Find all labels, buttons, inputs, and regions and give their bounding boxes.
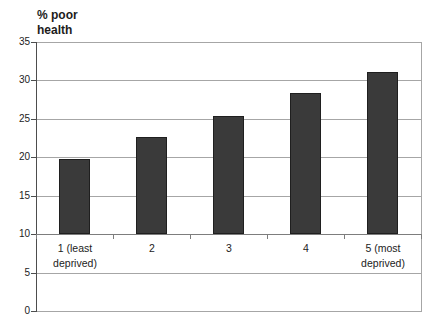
x-tick-label-2: 2	[120, 241, 184, 256]
y-axis-tick-20	[31, 157, 36, 158]
category-axis-line	[36, 234, 422, 235]
y-tick-label-35: 35	[6, 37, 30, 47]
category-axis-tick-0	[36, 235, 37, 239]
bar-chart: % poor health 353025201510501 (least dep…	[0, 0, 438, 336]
y-tick-label-0: 0	[6, 306, 30, 316]
bar-1	[59, 159, 90, 234]
y-axis-tick-15	[31, 196, 36, 197]
x-tick-label-5: 5 (most deprived)	[351, 241, 415, 270]
x-tick-label-1: 1 (least deprived)	[43, 241, 107, 270]
gridline-30	[36, 80, 421, 81]
bar-4	[290, 93, 321, 234]
y-tick-label-5: 5	[6, 268, 30, 278]
gridline-5	[36, 273, 421, 274]
x-tick-label-4: 4	[274, 241, 338, 256]
category-axis-tick-4	[344, 235, 345, 239]
y-tick-label-15: 15	[6, 191, 30, 201]
y-axis-tick-0	[31, 311, 36, 312]
category-axis-tick-3	[267, 235, 268, 239]
y-axis-line	[36, 42, 37, 312]
bar-3	[213, 116, 244, 234]
y-tick-label-30: 30	[6, 75, 30, 85]
y-tick-label-20: 20	[6, 152, 30, 162]
gridline-35	[36, 42, 421, 43]
bar-5	[367, 72, 398, 234]
y-tick-label-25: 25	[6, 114, 30, 124]
category-axis-tick-2	[190, 235, 191, 239]
category-axis-tick-5	[421, 235, 422, 239]
category-axis-tick-1	[113, 235, 114, 239]
y-axis-title: % poor health	[37, 8, 91, 39]
x-tick-label-3: 3	[197, 241, 261, 256]
chart-figure: % poor health 353025201510501 (least dep…	[0, 0, 438, 336]
y-axis-tick-30	[31, 80, 36, 81]
y-axis-tick-5	[31, 273, 36, 274]
plot-border-right	[421, 42, 422, 312]
y-axis-tick-35	[31, 42, 36, 43]
bar-2	[136, 137, 167, 234]
gridline-0	[36, 311, 421, 312]
y-axis-tick-25	[31, 119, 36, 120]
y-tick-label-10: 10	[6, 229, 30, 239]
